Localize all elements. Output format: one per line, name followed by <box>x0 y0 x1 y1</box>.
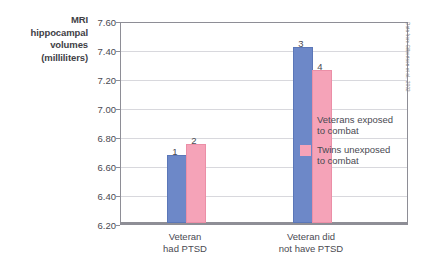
legend: Veterans exposed to combat Twins unexpos… <box>300 114 393 174</box>
x-category-no-ptsd-line-2: not have PTSD <box>251 243 371 255</box>
y-tick-label-7.20: 7.20 <box>84 75 116 86</box>
x-category-had-ptsd-line-1: Veteran <box>125 231 245 243</box>
source-credit: Data from Gilbertson et al., 2002 <box>405 22 410 132</box>
x-category-had-ptsd-line-2: had PTSD <box>125 243 245 255</box>
data-label-2: 2 <box>179 135 209 146</box>
y-tick-mark-6.80 <box>116 138 120 139</box>
y-tick-label-7.40: 7.40 <box>84 46 116 57</box>
y-tick-label-6.60: 6.60 <box>84 162 116 173</box>
data-label-4: 4 <box>305 61 335 72</box>
y-tick-label-6.80: 6.80 <box>84 133 116 144</box>
y-tick-mark-6.40 <box>116 196 120 197</box>
x-category-label-had-ptsd: Veteran had PTSD <box>125 231 245 254</box>
y-tick-mark-7.60 <box>116 22 120 23</box>
y-tick-mark-7.20 <box>116 80 120 81</box>
data-label-3: 3 <box>286 38 316 49</box>
y-tick-mark-7.40 <box>116 51 120 52</box>
y-tick-label-6.40: 6.40 <box>84 191 116 202</box>
legend-label-twins-unexposed-line-1: Twins unexposed <box>317 144 390 155</box>
legend-label-twins-unexposed: Twins unexposed to combat <box>317 144 390 167</box>
legend-label-twins-unexposed-line-2: to combat <box>317 155 390 166</box>
legend-swatch-pink-icon <box>300 145 311 156</box>
y-tick-mark-7.00 <box>116 109 120 110</box>
legend-swatch-blue-icon <box>300 115 311 126</box>
y-tick-label-7.60: 7.60 <box>84 17 116 28</box>
legend-label-veterans-exposed-line-2: to combat <box>317 125 393 136</box>
legend-item-twins-unexposed: Twins unexposed to combat <box>300 144 393 167</box>
y-tick-mark-6.20 <box>116 225 120 226</box>
legend-label-veterans-exposed: Veterans exposed to combat <box>317 114 393 137</box>
legend-label-veterans-exposed-line-1: Veterans exposed <box>317 114 393 125</box>
x-category-no-ptsd-line-1: Veteran did <box>251 231 371 243</box>
data-label-1: 1 <box>160 146 190 157</box>
chart-figure: MRI hippocampal volumes (milliliters) 7.… <box>0 0 433 261</box>
legend-item-veterans-exposed: Veterans exposed to combat <box>300 114 393 137</box>
y-tick-mark-6.60 <box>116 167 120 168</box>
y-tick-label-6.20: 6.20 <box>84 220 116 231</box>
x-category-label-no-ptsd: Veteran did not have PTSD <box>251 231 371 254</box>
y-tick-label-7.00: 7.00 <box>84 104 116 115</box>
